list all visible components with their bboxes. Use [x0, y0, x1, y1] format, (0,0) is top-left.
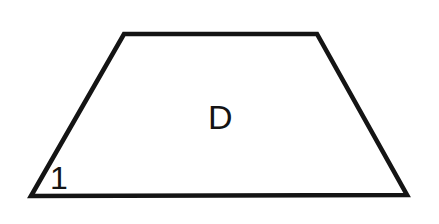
figure-canvas: D 1 [0, 0, 439, 224]
angle-label-1: 1 [50, 162, 68, 194]
interior-region-label-d: D [208, 100, 233, 134]
